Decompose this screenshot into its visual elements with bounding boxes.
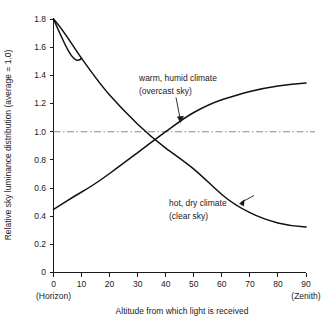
x-tick-label-10: 10 (77, 279, 87, 289)
y-tick-label-0: 0 (41, 267, 46, 277)
axes (54, 18, 307, 273)
x-axis-ticks (54, 273, 307, 278)
x-axis-left-edge-label: (Horizon) (36, 291, 71, 301)
x-tick-label-80: 80 (273, 279, 283, 289)
x-tick-label-30: 30 (133, 279, 143, 289)
x-tick-label-20: 20 (105, 279, 115, 289)
x-tick-label-90: 90 (301, 279, 311, 289)
annotation-warm-humid-leader-line (176, 98, 180, 119)
y-tick-label-5: 1.0 (34, 127, 46, 137)
curve-clear-sky-path (54, 19, 307, 227)
x-axis-title: Altitude from which light is received (116, 306, 249, 316)
annotation-warm-humid-line2: (overcast sky) (139, 86, 192, 96)
sky-luminance-line-chart: 0 0.2 0.4 0.6 0.8 1.0 1.2 1.4 1.6 1.8 0 (0, 0, 321, 330)
annotation-warm-humid-line1: warm, humid climate (138, 73, 217, 83)
annotation-hot-dry-arrowhead (239, 199, 245, 206)
annotation-hot-dry-line2: (clear sky) (169, 211, 208, 221)
y-tick-label-4: 0.8 (34, 155, 46, 165)
y-axis-ticks (50, 19, 54, 273)
y-tick-label-6: 1.2 (34, 98, 46, 108)
y-tick-label-3: 0.6 (34, 183, 46, 193)
y-tick-label-8: 1.6 (34, 42, 46, 52)
y-tick-label-2: 0.4 (34, 211, 46, 221)
x-tick-label-60: 60 (217, 279, 227, 289)
y-axis-title: Relative sky luminance distribution (ave… (3, 50, 13, 241)
y-tick-label-7: 1.4 (34, 70, 46, 80)
x-tick-label-40: 40 (161, 279, 171, 289)
x-tick-label-50: 50 (189, 279, 199, 289)
chart-figure: 0 0.2 0.4 0.6 0.8 1.0 1.2 1.4 1.6 1.8 0 (0, 0, 321, 330)
y-tick-label-9: 1.8 (34, 14, 46, 24)
x-axis-right-edge-label: (Zenith) (291, 291, 320, 301)
x-tick-label-0: 0 (51, 279, 56, 289)
figure-footer-strip (0, 322, 321, 330)
y-axis-tick-labels: 0 0.2 0.4 0.6 0.8 1.0 1.2 1.4 1.6 1.8 (34, 14, 46, 278)
x-axis-tick-labels: 0 10 20 30 40 50 60 70 80 90 (51, 279, 311, 289)
x-tick-label-70: 70 (245, 279, 255, 289)
annotation-warm-humid-climate: warm, humid climate (overcast sky) (138, 73, 217, 123)
curve-warm-humid-overcast-sky (54, 83, 307, 209)
y-tick-label-1: 0.2 (34, 239, 46, 249)
annotation-hot-dry-line1: hot, dry climate (169, 198, 227, 208)
